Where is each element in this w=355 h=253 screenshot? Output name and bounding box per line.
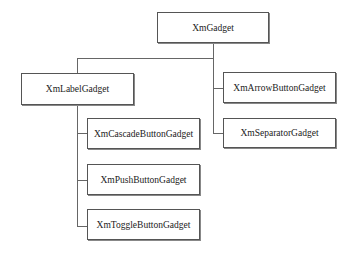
node-xmlabelgadget: XmLabelGadget (21, 73, 134, 105)
node-xmcascadebuttongadget: XmCascadeButtonGadget (87, 118, 200, 149)
connector-to-arrow (213, 88, 223, 89)
connector-to-label (77, 58, 78, 73)
node-xmtogglebuttongadget: XmToggleButtonGadget (87, 209, 200, 240)
node-xmpushbuttongadget: XmPushButtonGadget (87, 164, 200, 195)
connector-label-trunk (77, 105, 78, 227)
connector-to-push (77, 180, 87, 181)
connector-to-separator (213, 133, 223, 134)
node-xmgadget: XmGadget (157, 12, 269, 43)
node-xmseparatorgadget: XmSeparatorGadget (223, 118, 336, 148)
connector-to-toggle (77, 226, 87, 227)
connector-root-branch (77, 58, 214, 59)
connector-to-cascade (77, 133, 87, 134)
node-xmarrowbuttongadget: XmArrowButtonGadget (223, 72, 336, 103)
